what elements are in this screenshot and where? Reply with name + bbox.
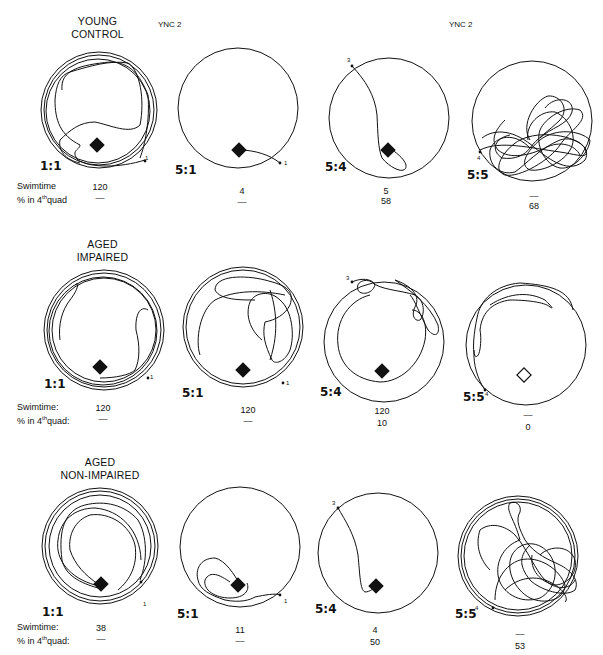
platform-filled-icon bbox=[230, 577, 246, 593]
quad-label: % in 4thquad: bbox=[17, 413, 70, 427]
trial-label: 5:5 bbox=[455, 607, 477, 621]
start-marker: 4 bbox=[475, 605, 478, 611]
start-marker: 1 bbox=[286, 380, 289, 386]
trial-label: 1:1 bbox=[40, 159, 62, 173]
trial-label: 5:5 bbox=[467, 168, 489, 182]
start-marker: 1 bbox=[143, 601, 146, 607]
start-marker: 3 bbox=[332, 500, 335, 506]
session-label-right: YNC 2 bbox=[449, 20, 473, 29]
swimtime-value: — bbox=[500, 628, 540, 640]
pool-aged-impaired-1-1 bbox=[44, 270, 164, 390]
platform-filled-icon bbox=[368, 578, 384, 594]
swimtime-label: Swimtime: bbox=[17, 402, 59, 413]
quad-value: — bbox=[81, 633, 121, 645]
group-title-line1: AGED bbox=[45, 456, 155, 469]
pool-aged-nonimpaired-5-4 bbox=[318, 493, 438, 613]
trial-label: 5:4 bbox=[315, 602, 337, 616]
start-marker: 3 bbox=[346, 275, 349, 281]
quad-value: 58 bbox=[366, 195, 406, 207]
pool-young-control-5-5 bbox=[472, 61, 592, 181]
start-marker: 1 bbox=[145, 155, 148, 161]
trial-label: 5:1 bbox=[177, 607, 199, 621]
quad-value: 68 bbox=[514, 200, 554, 212]
group-title-line2: NON-IMPAIRED bbox=[45, 469, 155, 482]
swimtime-label: Swimtime bbox=[17, 181, 56, 192]
start-marker: 4 bbox=[485, 391, 488, 397]
pool-aged-impaired-5-5 bbox=[466, 283, 586, 405]
quad-value: — bbox=[83, 413, 123, 425]
quad-label: % in 4thquad bbox=[17, 192, 67, 206]
quad-value: 50 bbox=[355, 636, 395, 648]
platform-filled-icon bbox=[380, 142, 396, 158]
group-title-line1: AGED bbox=[55, 238, 150, 251]
group-title-line1: YOUNG bbox=[50, 15, 145, 28]
pool-aged-impaired-5-4 bbox=[324, 279, 444, 402]
trial-label: 5:4 bbox=[320, 385, 342, 399]
swimtime-label: Swimtime: bbox=[17, 622, 59, 633]
trial-label: 1:1 bbox=[44, 377, 66, 391]
pool-young-control-5-4 bbox=[329, 58, 449, 178]
pool-aged-nonimpaired-5-5 bbox=[458, 496, 578, 616]
trial-label: 5:1 bbox=[182, 386, 204, 400]
trial-label: 1:1 bbox=[42, 605, 64, 619]
quad-value: — bbox=[80, 192, 120, 204]
platform-filled-icon bbox=[235, 362, 251, 378]
platform-filled-icon bbox=[231, 142, 247, 158]
platform-filled-icon bbox=[93, 576, 109, 592]
swimtime-value: 4 bbox=[355, 624, 395, 636]
platform-filled-icon bbox=[89, 137, 105, 153]
quad-label: % in 4thquad: bbox=[17, 633, 70, 647]
trial-label: 5:5 bbox=[463, 390, 485, 404]
quad-value: — bbox=[228, 415, 268, 427]
group-title-young-control: YOUNG CONTROL bbox=[50, 15, 145, 41]
quad-value: 53 bbox=[500, 640, 540, 652]
quad-value: 0 bbox=[508, 421, 548, 433]
platform-absent-icon bbox=[517, 368, 531, 382]
session-label-left: YNC 2 bbox=[158, 20, 182, 29]
group-title-line2: CONTROL bbox=[50, 28, 145, 41]
trial-label: 5:1 bbox=[175, 163, 197, 177]
start-marker: 4 bbox=[477, 155, 480, 161]
quad-value: 10 bbox=[362, 417, 402, 429]
swimtime-value: 120 bbox=[362, 405, 402, 417]
start-marker: 1 bbox=[284, 598, 287, 604]
start-marker: 1 bbox=[150, 374, 153, 380]
start-marker: 1 bbox=[284, 160, 287, 166]
platform-filled-icon bbox=[374, 363, 390, 379]
group-title-line2: IMPAIRED bbox=[55, 251, 150, 264]
swim-path-diagram bbox=[0, 0, 603, 655]
group-title-aged-impaired: AGED IMPAIRED bbox=[55, 238, 150, 264]
quad-value: — bbox=[220, 635, 260, 647]
platform-filled-icon bbox=[92, 359, 108, 375]
swimtime-value: — bbox=[508, 409, 548, 421]
trial-label: 5:4 bbox=[325, 160, 347, 174]
group-title-aged-non-impaired: AGED NON-IMPAIRED bbox=[45, 456, 155, 482]
start-marker: 3 bbox=[347, 57, 350, 63]
quad-value: — bbox=[222, 196, 262, 208]
